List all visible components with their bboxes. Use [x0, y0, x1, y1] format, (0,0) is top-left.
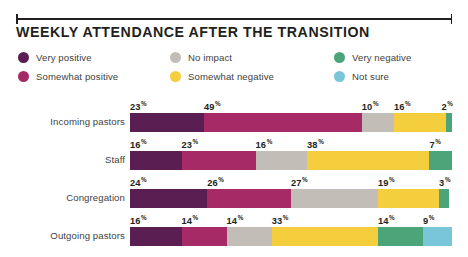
legend-label-not-sure: Not sure — [352, 71, 389, 82]
row-value-labels: 16%23%16%38%7% — [130, 134, 452, 151]
bar-segment-somewhat-positive — [182, 227, 227, 246]
bar-segment-somewhat-positive — [204, 113, 362, 132]
legend-swatch-no-impact — [170, 52, 181, 63]
bar-segment-very-negative — [446, 113, 452, 132]
value-label: 19% — [378, 176, 395, 188]
legend-item-not-sure: Not sure — [334, 71, 458, 82]
chart-row: Outgoing pastors16%14%14%33%14%9% — [0, 210, 468, 248]
bar-segment-somewhat-negative — [378, 189, 439, 208]
rule-cap-right — [451, 14, 453, 24]
chart-legend: Very positiveNo impactVery negativeSomew… — [18, 48, 458, 86]
legend-swatch-not-sure — [334, 71, 345, 82]
value-label: 23% — [182, 138, 199, 150]
legend-item-no-impact: No impact — [170, 52, 334, 63]
value-label: 16% — [130, 214, 147, 226]
bar-segment-somewhat-positive — [182, 151, 256, 170]
value-label: 16% — [394, 100, 411, 112]
bar-segment-somewhat-negative — [394, 113, 446, 132]
row-value-labels: 24%26%27%19%3% — [130, 172, 452, 189]
bar-segment-somewhat-negative — [272, 227, 378, 246]
rule-line — [16, 18, 452, 20]
chart-row: Congregation24%26%27%19%3% — [0, 172, 468, 210]
bar-segment-very-negative — [439, 189, 449, 208]
bar-segment-very-positive — [130, 113, 204, 132]
bar-segment-very-positive — [130, 227, 182, 246]
value-label: 2% — [441, 100, 452, 112]
bar-segment-very-negative — [429, 151, 452, 170]
row-label-staff: Staff — [14, 154, 125, 165]
legend-item-very-negative: Very negative — [334, 52, 458, 63]
legend-item-very-positive: Very positive — [18, 52, 170, 63]
chart-figure: WEEKLY ATTENDANCE AFTER THE TRANSITION V… — [0, 0, 468, 257]
value-label: 24% — [130, 176, 147, 188]
row-value-labels: 23%49%10%16%2% — [130, 96, 452, 113]
legend-swatch-very-positive — [18, 52, 29, 63]
bar-segment-somewhat-negative — [307, 151, 429, 170]
value-label: 16% — [130, 138, 147, 150]
stacked-bar — [130, 113, 452, 132]
bar-segment-very-positive — [130, 151, 182, 170]
value-label: 10% — [362, 100, 379, 112]
bar-segment-no-impact — [362, 113, 394, 132]
chart-title: WEEKLY ATTENDANCE AFTER THE TRANSITION — [16, 24, 370, 40]
value-label: 23% — [130, 100, 147, 112]
legend-label-no-impact: No impact — [188, 52, 232, 63]
stacked-bar — [130, 189, 452, 208]
value-label: 26% — [207, 176, 224, 188]
value-label: 14% — [227, 214, 244, 226]
value-label: 16% — [256, 138, 273, 150]
legend-swatch-somewhat-positive — [18, 71, 29, 82]
value-label: 14% — [378, 214, 395, 226]
row-label-incoming-pastors: Incoming pastors — [14, 116, 125, 127]
legend-item-somewhat-negative: Somewhat negative — [170, 71, 334, 82]
chart-row: Staff16%23%16%38%7% — [0, 134, 468, 172]
value-label: 33% — [272, 214, 289, 226]
legend-swatch-somewhat-negative — [170, 71, 181, 82]
value-label: 14% — [182, 214, 199, 226]
legend-label-very-negative: Very negative — [352, 52, 411, 63]
legend-item-somewhat-positive: Somewhat positive — [18, 71, 170, 82]
value-label: 27% — [291, 176, 308, 188]
bar-segment-very-negative — [378, 227, 423, 246]
stacked-bar — [130, 151, 452, 170]
bar-segment-somewhat-positive — [207, 189, 291, 208]
value-label: 38% — [307, 138, 324, 150]
row-value-labels: 16%14%14%33%14%9% — [130, 210, 452, 227]
value-label: 9% — [423, 214, 434, 226]
value-label: 3% — [439, 176, 450, 188]
bar-segment-no-impact — [227, 227, 272, 246]
bar-segment-very-positive — [130, 189, 207, 208]
legend-label-somewhat-negative: Somewhat negative — [188, 71, 274, 82]
legend-label-very-positive: Very positive — [36, 52, 92, 63]
legend-swatch-very-negative — [334, 52, 345, 63]
bar-segment-no-impact — [256, 151, 308, 170]
value-label: 7% — [429, 138, 440, 150]
row-label-outgoing-pastors: Outgoing pastors — [14, 230, 125, 241]
value-label: 49% — [204, 100, 221, 112]
legend-label-somewhat-positive: Somewhat positive — [36, 71, 118, 82]
bar-segment-no-impact — [291, 189, 378, 208]
stacked-bar — [130, 227, 452, 246]
header-rule — [16, 14, 452, 24]
chart-row: Incoming pastors23%49%10%16%2% — [0, 96, 468, 134]
plot-area: Incoming pastors23%49%10%16%2%Staff16%23… — [0, 96, 468, 248]
bar-segment-not-sure — [423, 227, 452, 246]
row-label-congregation: Congregation — [14, 192, 125, 203]
